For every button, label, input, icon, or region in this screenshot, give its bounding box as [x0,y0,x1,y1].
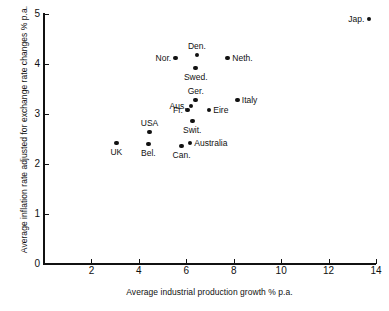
data-point-label: Eire [213,106,228,115]
x-tick-mark [91,259,92,264]
x-tick-mark [186,259,187,264]
y-tick-label-text: 0 [26,259,40,269]
data-point-label: Ger. [188,87,204,96]
x-tick-label: 10 [271,266,291,276]
x-tick-label: 4 [129,266,149,276]
x-tick-label: 2 [81,266,101,276]
x-tick-mark [376,259,377,264]
data-point [193,66,198,71]
data-point [185,108,190,113]
data-point-label: Can. [173,151,191,160]
y-tick-mark [45,64,49,65]
data-point [147,130,152,135]
data-point [367,17,372,22]
x-tick-label: 6 [176,266,196,276]
x-tick-label: 12 [319,266,339,276]
scatter-chart: 012345 2468101214 Average inflation rate… [0,0,389,311]
data-point-label: Swit. [183,126,201,135]
data-point [179,144,184,149]
data-point-label: Jap. [348,15,364,24]
x-tick-label: 8 [224,266,244,276]
y-tick-mark [45,14,49,15]
x-tick-mark [139,259,140,264]
data-point-label: Nor. [156,54,172,63]
y-axis-line [43,13,45,265]
data-point [146,142,151,147]
data-point [114,141,119,146]
y-tick-mark [45,164,49,165]
data-point-label: Swed. [184,73,208,82]
data-point-label: Australia [194,139,227,148]
x-tick-label: 14 [366,266,386,276]
data-point [188,141,193,146]
x-axis-title: Average industrial production growth % p… [43,288,376,297]
y-tick-mark [45,264,49,265]
x-tick-mark [234,259,235,264]
data-point-label: Bel. [141,149,156,158]
data-point [235,98,240,103]
data-point [225,56,230,61]
data-point [195,53,200,58]
data-point [173,56,178,61]
y-tick-mark [45,214,49,215]
y-axis-title: Average inflation rate adjusted for exch… [20,0,29,261]
data-point-label: UK [110,148,122,157]
data-point-label: Neth. [232,54,252,63]
x-tick-mark [281,259,282,264]
data-point [193,98,198,103]
data-point-label: Italy [242,96,258,105]
y-tick-mark [45,114,49,115]
data-point-label: USA [141,119,158,128]
x-tick-mark [329,259,330,264]
data-point [207,108,212,113]
data-point-label: Den. [188,42,206,51]
data-point [190,119,195,124]
data-point-label: Fr. [173,106,183,115]
